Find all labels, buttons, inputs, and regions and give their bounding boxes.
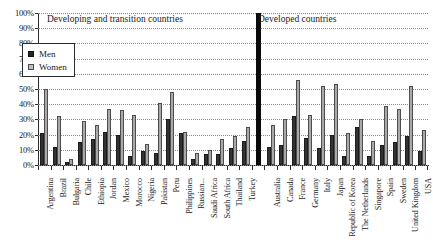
x-axis-label: South Africa bbox=[224, 178, 233, 218]
x-axis-label: Thailand bbox=[236, 178, 245, 206]
x-axis-label: Republic of Korea bbox=[349, 178, 358, 237]
bar-women bbox=[107, 109, 111, 165]
bar-group bbox=[126, 13, 139, 165]
bar-group bbox=[340, 13, 353, 165]
x-axis-label: Ethiopia bbox=[98, 178, 107, 205]
x-axis-tick-mark bbox=[315, 166, 316, 170]
x-axis-label: Sweden bbox=[400, 178, 409, 203]
x-axis-tick-mark bbox=[63, 166, 64, 170]
x-axis-label: Philippines bbox=[186, 178, 195, 214]
x-axis-label: Mexico bbox=[123, 178, 132, 202]
bar-group bbox=[51, 13, 64, 165]
bar-women bbox=[120, 110, 124, 165]
x-axis-label: Argentina bbox=[47, 178, 56, 210]
bar-women bbox=[397, 109, 401, 165]
x-axis-tick-mark bbox=[151, 166, 152, 170]
x-axis-tick-mark bbox=[202, 166, 203, 170]
x-axis-tick-mark bbox=[302, 166, 303, 170]
x-axis-tick-mark bbox=[390, 166, 391, 170]
x-axis-label: Jordan bbox=[110, 178, 119, 199]
bar-women bbox=[132, 115, 136, 165]
bar-group bbox=[390, 13, 403, 165]
bar-women bbox=[170, 92, 174, 165]
bar-women bbox=[346, 133, 350, 165]
bar-women bbox=[82, 121, 86, 165]
bar-women bbox=[208, 150, 212, 165]
x-axis-tick-mark bbox=[290, 166, 291, 170]
x-axis-label: Italy bbox=[324, 178, 333, 193]
x-axis-tick-mark bbox=[126, 166, 127, 170]
legend-item-men: Men bbox=[28, 47, 67, 60]
x-axis-label: Singapore bbox=[375, 178, 384, 210]
bar-group bbox=[63, 13, 76, 165]
x-axis-label: Nigeria bbox=[148, 178, 157, 202]
y-axis-tick-label: 90% bbox=[19, 24, 34, 33]
bar-group bbox=[88, 13, 101, 165]
x-axis-label: United Kingdom bbox=[412, 178, 421, 232]
bars-layer bbox=[38, 13, 428, 165]
bar-group bbox=[176, 13, 189, 165]
bar-women bbox=[308, 115, 312, 165]
bar-group bbox=[353, 13, 366, 165]
bar-group bbox=[202, 13, 215, 165]
bar-group bbox=[151, 13, 164, 165]
x-axis-tick-mark bbox=[88, 166, 89, 170]
bar-group bbox=[277, 13, 290, 165]
bar-group bbox=[38, 13, 51, 165]
x-axis-label: Turkey bbox=[249, 178, 258, 201]
x-axis-label: Morocco bbox=[136, 178, 145, 207]
x-axis-tick-mark bbox=[139, 166, 140, 170]
x-axis-label: Chile bbox=[85, 178, 94, 195]
bar-group bbox=[327, 13, 340, 165]
bar-group bbox=[302, 13, 315, 165]
bar-group bbox=[113, 13, 126, 165]
group-title-developed: Developed countries bbox=[258, 14, 336, 25]
x-axis-tick-mark bbox=[327, 166, 328, 170]
y-axis-tick-label: 20% bbox=[19, 130, 34, 139]
bar-women bbox=[296, 80, 300, 165]
x-axis-label: USA bbox=[425, 178, 433, 194]
bar-women bbox=[220, 139, 224, 165]
bar-women bbox=[321, 86, 325, 165]
bar-women bbox=[384, 106, 388, 165]
bar-women bbox=[44, 89, 48, 165]
bar-group bbox=[101, 13, 114, 165]
legend-label-men: Men bbox=[39, 49, 56, 59]
legend-label-women: Women bbox=[39, 62, 67, 72]
x-axis-tick-mark bbox=[252, 166, 253, 170]
x-axis-tick-mark bbox=[264, 166, 265, 170]
x-axis-label: Peru bbox=[173, 178, 182, 193]
bar-group bbox=[164, 13, 177, 165]
bar-women bbox=[409, 86, 413, 165]
x-axis-tick-mark bbox=[101, 166, 102, 170]
bar-women bbox=[95, 125, 99, 165]
x-axis-tick-mark bbox=[164, 166, 165, 170]
x-axis-label: Saudi Africa bbox=[211, 178, 220, 218]
group-divider-bar bbox=[256, 13, 261, 165]
x-axis-tick-mark bbox=[415, 166, 416, 170]
x-axis-tick-mark bbox=[38, 166, 39, 170]
bar-group bbox=[139, 13, 152, 165]
group-title-developing: Developing and transition countries bbox=[47, 14, 183, 25]
bar-group bbox=[365, 13, 378, 165]
bar-women bbox=[69, 159, 73, 165]
bar-group bbox=[264, 13, 277, 165]
x-axis-tick-mark bbox=[113, 166, 114, 170]
bar-group bbox=[403, 13, 416, 165]
legend-swatch-men-icon bbox=[28, 51, 34, 57]
bar-group bbox=[415, 13, 428, 165]
x-axis-label: The Netherlands bbox=[362, 178, 371, 231]
bar-women bbox=[158, 103, 162, 165]
x-axis-label: Germany bbox=[312, 178, 321, 208]
x-axis-tick-mark bbox=[427, 166, 428, 170]
x-axis-tick-mark bbox=[227, 166, 228, 170]
x-axis-labels: ArgentinaBrazilBulgariaChileEthiopiaJord… bbox=[38, 166, 428, 247]
x-axis-label: Spain bbox=[387, 178, 396, 196]
x-axis-label: Russian... bbox=[198, 178, 207, 209]
x-axis-tick-mark bbox=[214, 166, 215, 170]
x-axis-tick-mark bbox=[365, 166, 366, 170]
bar-women bbox=[334, 84, 338, 165]
x-axis-tick-mark bbox=[189, 166, 190, 170]
chart-legend: Men Women bbox=[22, 43, 75, 77]
